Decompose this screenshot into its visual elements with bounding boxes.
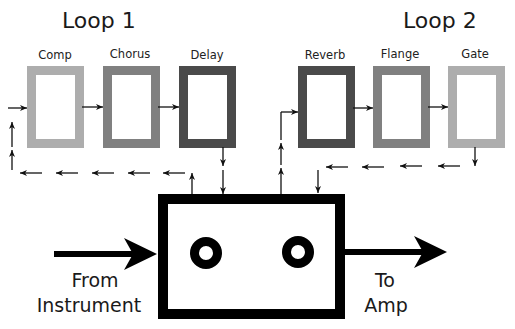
from-label: From bbox=[60, 268, 130, 293]
to-label: To bbox=[365, 268, 405, 293]
output-arrow bbox=[345, 236, 447, 268]
switcher-box bbox=[163, 199, 340, 314]
instrument-label: Instrument bbox=[26, 293, 152, 318]
input-arrow bbox=[54, 238, 157, 270]
signal-arrows bbox=[8, 107, 475, 194]
amp-label: Amp bbox=[358, 293, 414, 318]
